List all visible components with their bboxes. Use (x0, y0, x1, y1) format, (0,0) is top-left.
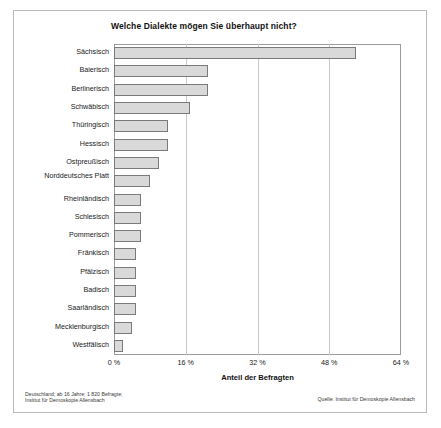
category-label: Fränkisch (19, 249, 109, 257)
category-label: Schlesisch (19, 213, 109, 221)
footer-note-left: Deutschland; ab 16 Jahre; 1 820 Befragte… (25, 391, 122, 404)
bar-series (114, 44, 401, 355)
category-label: Rheinländisch (19, 195, 109, 203)
bar (114, 47, 356, 59)
category-label: Berlinerisch (19, 85, 109, 93)
bar (114, 322, 132, 334)
bar (114, 248, 136, 260)
x-axis-tick-label: 48 % (321, 358, 337, 367)
bar (114, 212, 141, 224)
category-label: Saarländisch (19, 304, 109, 312)
footer-note-left-line2: Institut für Demoskopie Allensbach (25, 397, 122, 403)
category-label: Thüringisch (19, 121, 109, 129)
category-label: Schwäbisch (19, 103, 109, 111)
x-axis-tick-labels: 0 %16 %32 %48 %64 % (114, 358, 401, 370)
bar (114, 157, 159, 169)
bar (114, 194, 141, 206)
category-label: Sächsisch (19, 48, 109, 56)
bar (114, 175, 150, 187)
category-axis-labels: SächsischBaierischBerlinerischSchwäbisch… (19, 44, 109, 355)
category-label: Westfälisch (19, 341, 109, 349)
bar (114, 267, 136, 279)
x-axis-tick-label: 32 % (249, 358, 265, 367)
category-label: Baierisch (19, 66, 109, 74)
category-label: Ostpreußisch (19, 158, 109, 166)
category-label: Pfälzisch (19, 268, 109, 276)
category-label: Mecklenburgisch (19, 323, 109, 331)
bar (114, 230, 141, 242)
bar (114, 120, 168, 132)
x-axis-tick-label: 64 % (393, 358, 409, 367)
bar (114, 139, 168, 151)
category-label: Norddeutsches Platt (19, 172, 109, 180)
bar (114, 303, 136, 315)
category-label: Hessisch (19, 140, 109, 148)
category-label: Badisch (19, 286, 109, 294)
plot-area (114, 44, 401, 355)
x-axis-tick-label: 0 % (108, 358, 120, 367)
bar (114, 102, 190, 114)
bar (114, 65, 208, 77)
bar (114, 340, 123, 352)
chart-figure: Welche Dialekte mögen Sie überhaupt nich… (13, 10, 427, 413)
x-axis-label: Anteil der Befragten (114, 373, 401, 382)
chart-title: Welche Dialekte mögen Sie überhaupt nich… (111, 21, 411, 31)
bar (114, 285, 136, 297)
footer-source: Quelle: Institut für Demoskopie Allensba… (318, 396, 415, 402)
bar (114, 84, 208, 96)
x-axis-tick-label: 16 % (178, 358, 194, 367)
category-label: Pommerisch (19, 231, 109, 239)
